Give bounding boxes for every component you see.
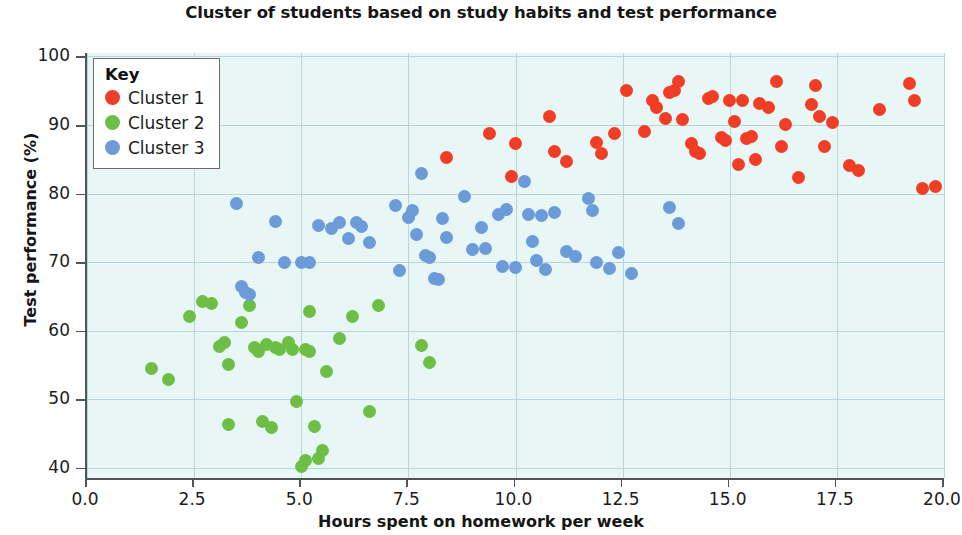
data-point	[363, 236, 376, 249]
data-point	[406, 204, 419, 217]
data-point	[659, 112, 672, 125]
legend-title: Key	[105, 65, 205, 84]
gridline-vertical	[408, 53, 409, 478]
data-point	[719, 134, 732, 147]
data-point	[308, 420, 321, 433]
data-point	[483, 127, 496, 140]
data-point	[243, 288, 256, 301]
data-point	[818, 140, 831, 153]
data-point	[638, 125, 651, 138]
x-axis-tick-label: 10.0	[474, 489, 554, 509]
data-point	[762, 101, 775, 114]
x-axis-tick	[192, 478, 194, 487]
gridline-horizontal	[87, 331, 944, 332]
data-point	[333, 332, 346, 345]
data-point	[569, 250, 582, 263]
data-point	[745, 130, 758, 143]
data-point	[603, 262, 616, 275]
gridline-horizontal	[87, 194, 944, 195]
data-point	[723, 94, 736, 107]
data-point	[608, 127, 621, 140]
legend-marker-circle-icon	[105, 140, 120, 155]
data-point	[612, 246, 625, 259]
data-point	[676, 113, 689, 126]
x-axis-tick	[728, 478, 730, 487]
data-point	[496, 260, 509, 273]
y-axis-tick	[76, 194, 85, 196]
gridline-vertical	[944, 53, 945, 478]
legend-item-label: Cluster 2	[128, 113, 205, 133]
legend: Key Cluster 1Cluster 2Cluster 3	[93, 58, 220, 169]
data-point	[805, 98, 818, 111]
y-axis-tick	[76, 56, 85, 58]
data-point	[548, 145, 561, 158]
gridline-vertical	[837, 53, 838, 478]
data-point	[230, 197, 243, 210]
legend-marker-circle-icon	[105, 90, 120, 105]
x-axis-tick-label: 2.5	[152, 489, 232, 509]
data-point	[873, 103, 886, 116]
legend-item: Cluster 1	[105, 85, 205, 110]
data-point	[355, 220, 368, 233]
data-point	[539, 263, 552, 276]
y-axis-label: Test performance (%)	[21, 50, 40, 410]
data-point	[929, 180, 942, 193]
chart-title: Cluster of students based on study habit…	[0, 3, 962, 22]
data-point	[278, 256, 291, 269]
data-point	[243, 299, 256, 312]
data-point	[222, 358, 235, 371]
data-point	[728, 115, 741, 128]
data-point	[252, 251, 265, 264]
data-point	[535, 209, 548, 222]
x-axis-tick-label: 17.5	[795, 489, 875, 509]
data-point	[813, 110, 826, 123]
x-axis-label: Hours spent on homework per week	[0, 512, 962, 531]
y-axis-tick	[76, 262, 85, 264]
x-axis-tick-label: 20.0	[902, 489, 962, 509]
y-axis-tick-label: 40	[0, 457, 70, 477]
data-point	[706, 90, 719, 103]
data-point	[415, 167, 428, 180]
data-point	[518, 175, 531, 188]
legend-item: Cluster 2	[105, 110, 205, 135]
x-axis-tick	[85, 478, 87, 487]
x-axis-tick-label: 7.5	[366, 489, 446, 509]
data-point	[346, 310, 359, 323]
y-axis-tick	[76, 125, 85, 127]
data-point	[286, 343, 299, 356]
data-point	[792, 171, 805, 184]
data-point	[693, 147, 706, 160]
data-point	[393, 264, 406, 277]
data-point	[440, 231, 453, 244]
data-point	[269, 215, 282, 228]
x-axis-tick	[299, 478, 301, 487]
data-point	[410, 228, 423, 241]
data-point	[440, 151, 453, 164]
gridline-horizontal	[87, 468, 944, 469]
data-point	[505, 170, 518, 183]
data-point	[908, 94, 921, 107]
data-point	[316, 444, 329, 457]
data-point	[479, 242, 492, 255]
data-point	[415, 339, 428, 352]
legend-rows: Cluster 1Cluster 2Cluster 3	[105, 85, 205, 160]
data-point	[466, 243, 479, 256]
data-point	[436, 212, 449, 225]
data-point	[145, 362, 158, 375]
data-point	[458, 190, 471, 203]
data-point	[299, 454, 312, 467]
data-point	[303, 345, 316, 358]
data-point	[265, 421, 278, 434]
data-point	[903, 77, 916, 90]
x-axis-tick	[406, 478, 408, 487]
data-point	[218, 336, 231, 349]
data-point	[423, 356, 436, 369]
data-point	[650, 101, 663, 114]
data-point	[732, 158, 745, 171]
y-axis-tick	[76, 468, 85, 470]
data-point	[205, 297, 218, 310]
legend-item: Cluster 3	[105, 135, 205, 160]
data-point	[543, 110, 556, 123]
data-point	[620, 84, 633, 97]
data-point	[303, 256, 316, 269]
